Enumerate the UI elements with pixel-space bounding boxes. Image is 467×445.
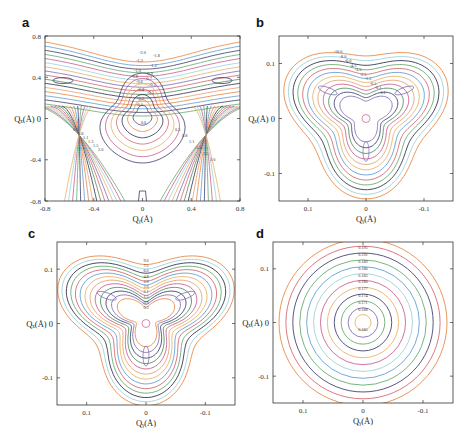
contour-line xyxy=(175,290,196,302)
contour-label: -0.5 xyxy=(149,82,156,87)
contour-area: -2.0-1.8-1.3-1.2-1.0-0.9-0.8-0.7-0.6-0.5… xyxy=(35,41,250,211)
y-tick-label: -0.1 xyxy=(258,373,270,381)
contour-label: 0.1 xyxy=(380,90,385,95)
contour-line xyxy=(143,346,149,366)
contour-line xyxy=(317,84,338,96)
contour-line xyxy=(142,320,150,328)
contour-label: 1.3 xyxy=(196,145,201,150)
y-tick-label: -0.1 xyxy=(42,374,54,382)
y-tick-label: -0.4 xyxy=(30,156,42,164)
x-axis-label: Qᵧ(Å) xyxy=(132,214,152,225)
x-tick-label: -0.1 xyxy=(417,407,429,415)
contour-area: 9.07.56.04.83.93.02.11.50.90.3 xyxy=(58,256,234,406)
contour-label: 0.180 xyxy=(358,279,367,284)
x-tick-label: 0.1 xyxy=(299,407,308,415)
y-axis-label: Qₓ(Å) 0 xyxy=(14,114,41,124)
panel-label: b xyxy=(256,15,264,30)
contour-label: 2.0 xyxy=(210,157,215,162)
contour-area: -10.0-8.0-6.0-4.5-3.5-2.5-1.5-0.5-0.10.1 xyxy=(284,49,448,199)
contour-label: -1.0 xyxy=(134,68,141,73)
x-tick-label: 0 xyxy=(141,205,145,213)
y-tick-label: 0.1 xyxy=(44,266,53,274)
contour-label: 0.189 xyxy=(358,259,367,264)
y-tick-label: 0.1 xyxy=(266,60,275,68)
panel-b: b-10.0-8.0-6.0-4.5-3.5-2.5-1.5-0.5-0.10.… xyxy=(248,15,453,225)
x-tick-label: -0.1 xyxy=(418,205,430,213)
y-tick-label: -0.1 xyxy=(264,170,276,178)
x-tick-label: 0.1 xyxy=(82,409,91,417)
contour-line xyxy=(279,239,447,405)
y-axis-label: Qₓ(Å) 0 xyxy=(26,319,53,329)
contour-label: -1.3 xyxy=(136,58,143,63)
x-tick-label: 0.1 xyxy=(304,205,313,213)
y-tick-label: 0.8 xyxy=(32,33,41,41)
panel-label: d xyxy=(256,226,264,241)
x-tick-label: 0 xyxy=(144,409,148,417)
contour-line xyxy=(334,92,398,148)
contour-label: 1.1 xyxy=(189,139,194,144)
panel-d: d0.1980.1950.1920.1890.1860.1830.1800.17… xyxy=(242,226,453,427)
contour-label: 0.165 xyxy=(358,327,367,332)
x-tick-label: -0.8 xyxy=(39,205,51,213)
contour-line xyxy=(111,84,174,151)
contour-line xyxy=(308,72,425,174)
contour-line xyxy=(40,62,245,80)
figure: a-2.0-1.8-1.3-1.2-1.0-0.9-0.8-0.7-0.6-0.… xyxy=(0,0,467,445)
contour-label: 0.192 xyxy=(358,252,367,257)
x-axis-label: Qᵧ(Å) xyxy=(136,418,156,429)
x-axis-label: Qᵧ(Å) xyxy=(356,214,376,225)
contour-label: 0.171 xyxy=(358,300,367,305)
contour-line xyxy=(340,96,392,142)
contour-label: -1.2 xyxy=(150,63,157,68)
contour-label: 0.0 xyxy=(141,120,146,125)
x-tick-label: 0 xyxy=(361,407,365,415)
x-tick-label: 0.8 xyxy=(236,205,245,213)
x-axis-label: Qᵧ(Å) xyxy=(353,416,373,427)
contour-label: 0.5 xyxy=(175,127,180,132)
panel-a: a-2.0-1.8-1.3-1.2-1.0-0.9-0.8-0.7-0.6-0.… xyxy=(14,15,250,225)
contour-line xyxy=(394,84,415,96)
x-tick-label: -0.4 xyxy=(88,205,100,213)
contour-line xyxy=(96,290,117,302)
contour-label: -2.0 xyxy=(139,50,146,55)
x-tick-label: 0.4 xyxy=(187,205,196,213)
panel-c: c9.07.56.04.83.93.02.11.50.90.30.10-0.10… xyxy=(26,226,235,429)
contour-label: 0.8 xyxy=(182,133,187,138)
contour-line xyxy=(362,115,370,123)
contour-label: 2.0 xyxy=(98,147,103,152)
y-tick-label: 0.4 xyxy=(32,74,41,82)
y-tick-label: 0.1 xyxy=(260,265,269,273)
contour-label: -0.6 xyxy=(136,79,143,84)
contour-label: 0.186 xyxy=(358,266,367,271)
contour-area: 0.1980.1950.1920.1890.1860.1830.1800.177… xyxy=(279,238,447,405)
y-axis-label: Qₓ(Å) 0 xyxy=(242,318,269,328)
contour-label: 1.5 xyxy=(203,151,208,156)
x-tick-label: -0.1 xyxy=(200,409,212,417)
contour-label: -0.2 xyxy=(137,96,144,101)
contour-label: 0.174 xyxy=(358,293,368,298)
contour-label: -1.8 xyxy=(153,53,160,58)
contour-label: -0.7 xyxy=(145,76,152,81)
x-tick-label: 0 xyxy=(364,205,368,213)
contour-label: -0.3 xyxy=(147,90,154,95)
contour-label: -0.1 xyxy=(136,102,143,107)
contour-label: -0.4 xyxy=(137,87,145,92)
contour-line xyxy=(348,308,378,338)
contour-label: 0.177 xyxy=(358,286,367,291)
contour-label: 0.168 xyxy=(358,307,367,312)
panel-label: c xyxy=(28,226,35,241)
y-tick-label: -0.8 xyxy=(30,198,42,206)
contour-line xyxy=(363,142,369,162)
y-axis-label: Qₓ(Å) 0 xyxy=(248,114,275,124)
contour-label: 0.183 xyxy=(358,273,367,278)
contour-label: 0.3 xyxy=(143,305,148,310)
contour-label: 0.195 xyxy=(358,245,367,250)
panel-label: a xyxy=(22,15,30,30)
